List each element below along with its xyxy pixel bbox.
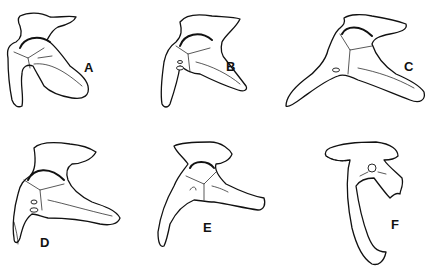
panel-label-a: A	[84, 61, 93, 74]
figure-canvas	[0, 0, 431, 275]
panel-d-drawing	[13, 143, 120, 244]
panel-label-e: E	[203, 221, 212, 234]
panel-label-c: C	[404, 60, 413, 73]
panel-a-drawing	[7, 13, 88, 107]
panel-label-d: D	[40, 236, 49, 249]
panel-label-f: F	[391, 218, 399, 231]
panel-f-drawing	[325, 142, 402, 265]
panel-label-b: B	[226, 60, 235, 73]
